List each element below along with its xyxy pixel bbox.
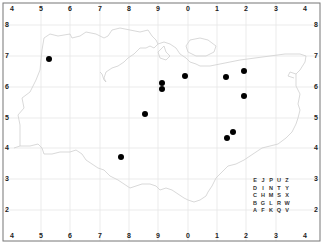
location-dot[interactable]	[223, 74, 229, 80]
legend-letter: I	[259, 185, 267, 193]
legend-letter: H	[259, 192, 267, 200]
location-dot[interactable]	[224, 135, 230, 141]
legend-row: CHMSX	[251, 192, 291, 200]
location-dot[interactable]	[118, 154, 124, 160]
axis-label: 1	[212, 5, 222, 13]
axis-label: 7	[311, 52, 321, 60]
legend-letter: V	[283, 207, 291, 215]
axis-label: 9	[153, 232, 163, 240]
location-dot[interactable]	[241, 68, 247, 74]
axis-label: 4	[300, 232, 310, 240]
location-dot[interactable]	[142, 111, 148, 117]
legend-letter: R	[275, 200, 283, 208]
legend-letter: X	[283, 192, 291, 200]
axis-label: 5	[36, 5, 46, 13]
axis-label: 6	[2, 83, 12, 91]
axis-label: 4	[311, 144, 321, 152]
axis-label: 4	[300, 5, 310, 13]
location-dot[interactable]	[182, 73, 188, 79]
legend-row: EJPUZ	[251, 177, 291, 185]
axis-label: 8	[311, 21, 321, 29]
location-dot[interactable]	[230, 129, 236, 135]
legend-row: BGLRW	[251, 200, 291, 208]
axis-label: 6	[311, 83, 321, 91]
axis-label: 5	[311, 114, 321, 122]
legend-letter: J	[259, 177, 267, 185]
legend-letter: D	[251, 185, 259, 193]
location-dot[interactable]	[159, 86, 165, 92]
axis-label: 2	[241, 5, 251, 13]
legend-letter: K	[267, 207, 275, 215]
map-canvas[interactable]: 45678901234 45678901234 8765432 8765432 …	[0, 0, 325, 247]
location-dot[interactable]	[46, 56, 52, 62]
legend-letter: M	[267, 192, 275, 200]
axis-label: 3	[271, 5, 281, 13]
legend-row: AFKQV	[251, 207, 291, 215]
legend-letter: B	[251, 200, 259, 208]
axis-label: 3	[271, 232, 281, 240]
letter-grid-legend: EJPUZDINTYCHMSXBGLRWAFKQV	[251, 177, 291, 215]
axis-label: 2	[241, 232, 251, 240]
axis-label: 4	[7, 5, 17, 13]
axis-label: 3	[2, 175, 12, 183]
axis-label: 2	[311, 206, 321, 214]
legend-letter: Y	[283, 185, 291, 193]
axis-label: 8	[124, 232, 134, 240]
axis-label: 9	[153, 5, 163, 13]
legend-row: DINTY	[251, 185, 291, 193]
legend-letter: G	[259, 200, 267, 208]
legend-letter: A	[251, 207, 259, 215]
legend-letter: S	[275, 192, 283, 200]
axis-label: 5	[2, 114, 12, 122]
legend-letter: W	[283, 200, 291, 208]
axis-label: 2	[2, 206, 12, 214]
legend-letter: N	[267, 185, 275, 193]
location-dot[interactable]	[241, 93, 247, 99]
axis-label: 8	[124, 5, 134, 13]
legend-letter: C	[251, 192, 259, 200]
axis-label: 5	[36, 232, 46, 240]
legend-letter: Q	[275, 207, 283, 215]
axis-label: 6	[65, 5, 75, 13]
axis-label: 4	[7, 232, 17, 240]
axis-label: 1	[212, 232, 222, 240]
legend-letter: E	[251, 177, 259, 185]
axis-label: 3	[311, 175, 321, 183]
legend-letter: Z	[283, 177, 291, 185]
axis-label: 0	[183, 232, 193, 240]
axis-label: 7	[95, 232, 105, 240]
legend-letter: T	[275, 185, 283, 193]
axis-label: 4	[2, 144, 12, 152]
coastline	[14, 28, 306, 202]
legend-letter: F	[259, 207, 267, 215]
axis-label: 6	[65, 232, 75, 240]
legend-letter: U	[275, 177, 283, 185]
legend-letter: L	[267, 200, 275, 208]
axis-label: 7	[2, 52, 12, 60]
axis-label: 0	[183, 5, 193, 13]
axis-label: 7	[95, 5, 105, 13]
legend-letter: P	[267, 177, 275, 185]
axis-label: 8	[2, 21, 12, 29]
